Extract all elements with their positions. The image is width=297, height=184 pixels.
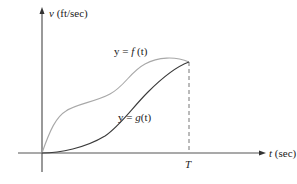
x-axis-label: t (sec) — [269, 147, 297, 160]
curve-g — [42, 62, 189, 153]
curve-g-label: y = g(t) — [118, 111, 151, 124]
y-axis-arrow-icon — [40, 7, 45, 14]
curve-f — [42, 58, 189, 153]
x-axis-arrow-icon — [259, 151, 266, 156]
chart-svg: v (ft/sec) t (sec) T y = f (t) y = g(t) — [0, 0, 297, 184]
y-axis-label: v (ft/sec) — [49, 7, 88, 20]
curve-f-label: y = f (t) — [114, 45, 148, 58]
velocity-chart: v (ft/sec) t (sec) T y = f (t) y = g(t) — [0, 0, 297, 184]
x-tick-T: T — [185, 158, 192, 170]
